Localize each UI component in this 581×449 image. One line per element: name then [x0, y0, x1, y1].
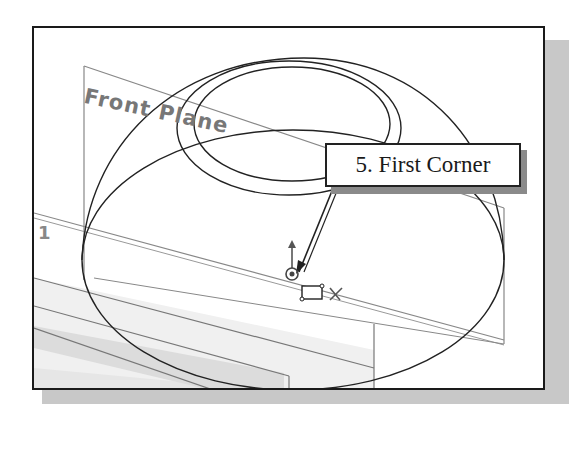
plane-label-1: 1: [38, 222, 51, 243]
step-callout: 5. First Corner: [325, 143, 521, 187]
rectangle-cursor-icon: [300, 284, 324, 301]
model-geometry: [34, 28, 545, 390]
graphics-viewport[interactable]: Front Plane 1: [32, 26, 545, 390]
callout-text: 5. First Corner: [356, 152, 491, 178]
origin-icon: [286, 240, 298, 280]
